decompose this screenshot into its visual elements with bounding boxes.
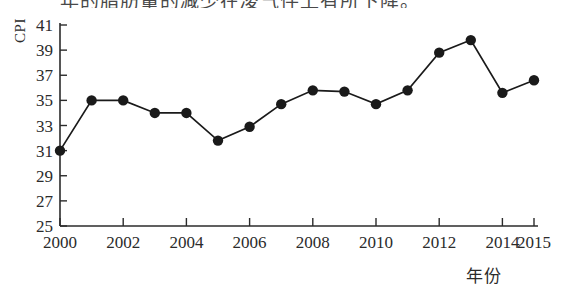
x-axis-tick-label: 2002	[106, 233, 140, 252]
data-point-marker	[434, 47, 444, 57]
data-point-marker	[529, 75, 539, 85]
data-point-marker	[402, 85, 412, 95]
cpi-data-markers	[55, 35, 539, 156]
data-point-marker	[118, 95, 128, 105]
data-point-marker	[339, 86, 349, 96]
x-axis-tick-label: 2006	[233, 233, 267, 252]
y-axis-tick-label: 35	[36, 91, 53, 110]
chart-canvas: 252729313335373941 200020022004200620082…	[0, 0, 567, 296]
data-point-marker	[150, 108, 160, 118]
y-axis-tick-label: 41	[36, 16, 53, 35]
x-axis-tick-label: 2004	[169, 233, 204, 252]
data-point-marker	[308, 85, 318, 95]
data-point-marker	[371, 99, 381, 109]
data-point-marker	[466, 35, 476, 45]
y-axis-tick-label: 37	[36, 66, 54, 85]
x-axis-tick-label: 2010	[359, 233, 393, 252]
y-axis-tick-label: 31	[36, 142, 53, 161]
data-point-marker	[213, 135, 223, 145]
y-axis-tick-label: 27	[36, 192, 54, 211]
x-axis-title: 年份	[466, 262, 502, 287]
y-axis-tick-label: 29	[36, 167, 53, 186]
data-point-marker	[86, 95, 96, 105]
data-point-marker	[55, 145, 65, 155]
x-axis-tick-label: 2015	[517, 233, 551, 252]
x-axis-tick-label: 2014	[485, 233, 520, 252]
data-point-marker	[181, 108, 191, 118]
y-axis-tick-label: 39	[36, 41, 53, 60]
x-axis-tick-label: 2012	[422, 233, 456, 252]
cpi-line-chart-figure: CPI 252729313335373941 20002002200420062…	[0, 0, 567, 296]
data-point-marker	[276, 99, 286, 109]
x-axis-tick-label: 2008	[296, 233, 330, 252]
y-axis-tick-label: 33	[36, 117, 53, 136]
y-axis-tick-group: 252729313335373941	[36, 16, 67, 236]
x-axis-tick-group: 200020022004200620082010201220142015	[43, 218, 551, 252]
data-point-marker	[244, 122, 254, 132]
data-point-marker	[497, 88, 507, 98]
cpi-data-line	[60, 40, 534, 151]
x-axis-tick-label: 2000	[43, 233, 77, 252]
